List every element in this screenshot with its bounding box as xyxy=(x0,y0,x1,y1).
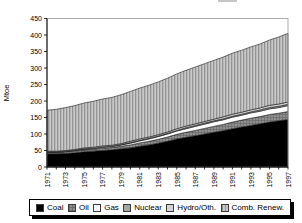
x-tick-label: 1987 xyxy=(192,172,199,188)
x-tick-label: 1995 xyxy=(266,172,273,188)
y-tick-label: 300 xyxy=(30,65,42,72)
legend-swatch-nuclear xyxy=(123,204,131,212)
legend-item-comb-renew: Comb. Renew. xyxy=(221,203,284,212)
legend-swatch-hydro-oth xyxy=(166,204,174,212)
y-tick-label: 100 xyxy=(30,131,42,138)
y-tick-label: 0 xyxy=(38,164,42,171)
x-tick-label: 1991 xyxy=(229,172,236,188)
legend-item-hydro-oth: Hydro/Oth. xyxy=(166,203,216,212)
x-tick-label: 1983 xyxy=(155,172,162,188)
y-tick-label: 450 xyxy=(30,15,42,22)
legend-item-coal: Coal xyxy=(36,203,63,212)
x-tick-label: 1971 xyxy=(44,172,51,188)
legend-swatch-gas xyxy=(93,204,101,212)
y-tick-label: 400 xyxy=(30,32,42,39)
y-axis-group: 050100150200250300350400450 xyxy=(30,15,47,171)
stacked-area-chart: 050100150200250300350400450 197119731975… xyxy=(0,0,302,223)
legend-item-nuclear: Nuclear xyxy=(123,203,162,212)
legend-item-oil: Oil xyxy=(68,203,89,212)
y-tick-label: 250 xyxy=(30,81,42,88)
y-axis-title: Mtoe xyxy=(2,85,11,102)
x-tick-label: 1979 xyxy=(118,172,125,188)
legend-swatch-oil xyxy=(68,204,76,212)
y-tick-label: 150 xyxy=(30,114,42,121)
legend: CoalOilGasNuclearHydro/Oth.Comb. Renew. xyxy=(29,199,291,216)
legend-label: Hydro/Oth. xyxy=(177,203,216,212)
y-tick-label: 50 xyxy=(34,147,42,154)
area-series-group xyxy=(47,33,288,167)
x-tick-label: 1981 xyxy=(136,172,143,188)
x-tick-label: 1993 xyxy=(248,172,255,188)
chart-image: 050100150200250300350400450 197119731975… xyxy=(0,0,302,223)
legend-swatch-coal xyxy=(36,204,44,212)
legend-swatch-comb-renew xyxy=(221,204,229,212)
x-tick-label: 1977 xyxy=(99,172,106,188)
legend-label: Gas xyxy=(104,203,119,212)
legend-label: Comb. Renew. xyxy=(232,203,284,212)
x-tick-label: 1985 xyxy=(174,172,181,188)
legend-label: Nuclear xyxy=(134,203,162,212)
x-tick-label: 1989 xyxy=(211,172,218,188)
legend-label: Oil xyxy=(79,203,89,212)
x-tick-label: 1975 xyxy=(81,172,88,188)
y-tick-label: 200 xyxy=(30,98,42,105)
x-axis-group: 1971197319751977197919811983198519871989… xyxy=(44,167,292,188)
x-tick-label: 1997 xyxy=(285,172,292,188)
legend-label: Coal xyxy=(47,203,63,212)
legend-item-gas: Gas xyxy=(93,203,119,212)
y-tick-label: 350 xyxy=(30,48,42,55)
x-tick-label: 1973 xyxy=(62,172,69,188)
